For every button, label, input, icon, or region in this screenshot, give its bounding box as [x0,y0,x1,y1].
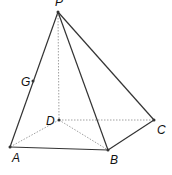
point-G [32,80,35,83]
vertex-labels: P A B C D G [11,0,166,167]
label-G: G [21,75,30,89]
label-C: C [157,123,166,137]
point-P [57,11,60,14]
edge-PD [58,12,59,120]
edge-AB [10,147,108,150]
edge-PB [58,12,108,150]
pyramid-figure: P A B C D G [0,0,172,175]
label-D: D [46,114,55,128]
label-B: B [110,153,118,167]
pyramid-diagram: P A B C D G [0,0,172,175]
point-B [107,149,110,152]
edge-DB [59,120,108,150]
point-C [153,119,156,122]
point-D [58,119,61,122]
edge-BC [108,120,154,150]
vertex-points [9,11,156,152]
point-A [9,146,12,149]
edge-PC [58,12,154,120]
label-A: A [11,151,20,165]
label-P: P [55,0,63,9]
